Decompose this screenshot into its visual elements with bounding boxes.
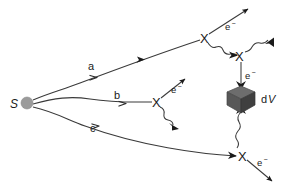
dv-label-prefix: d	[261, 93, 267, 105]
electron-label-middle-text: e	[171, 84, 176, 95]
electron-label-bottom-text: e	[257, 157, 262, 168]
electron-label-top-sup: −	[232, 20, 236, 27]
vertex-label-middle: X	[152, 95, 161, 110]
dv-label: d V	[261, 93, 277, 105]
electron-label-top: e −	[225, 20, 236, 32]
ray-a-arrowhead	[136, 57, 145, 64]
ray-label-b: b	[114, 89, 120, 101]
ray-b-path	[33, 98, 152, 104]
electron-label-cube-sup: −	[252, 69, 256, 76]
dv-volume-cube	[227, 86, 255, 113]
electron-label-cube-text: e	[245, 70, 250, 81]
scattered-photon-middle	[160, 107, 173, 125]
dv-label-variable: V	[268, 93, 277, 105]
source-point-marker	[21, 97, 33, 109]
ray-label-a: a	[88, 60, 95, 72]
electron-label-top-text: e	[225, 21, 230, 32]
electron-label-middle-sup: −	[178, 83, 182, 90]
electron-label-bottom: e −	[257, 156, 268, 168]
vertex-label-bottom: X	[238, 149, 247, 164]
photon-from-dv-to-bottom	[236, 112, 241, 148]
diagram-canvas: S a b c X X X X e − e − e − e − d V	[0, 0, 287, 191]
scattered-photon-middle-arrowhead	[169, 123, 179, 131]
source-label: S	[10, 97, 18, 111]
photon-transport-diagram: S a b c X X X X e − e − e − e − d V	[0, 0, 287, 191]
electron-label-cube: e −	[245, 69, 256, 81]
vertex-label-top: X	[200, 31, 209, 46]
ray-c-path	[33, 107, 236, 156]
ray-label-c: c	[90, 122, 96, 134]
electron-label-middle: e −	[171, 83, 182, 95]
outgoing-photon-upper-right	[245, 40, 268, 52]
electron-label-bottom-sup: −	[264, 156, 268, 163]
vertex-label-upper-right: X	[235, 49, 244, 64]
